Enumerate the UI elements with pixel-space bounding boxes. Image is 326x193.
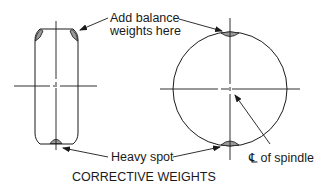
label-spindle-center: ℄ of spindle — [249, 152, 314, 165]
arrow-heavy-spot-front — [173, 147, 220, 157]
front-view-wheel — [160, 18, 300, 160]
arrow-heavy-spot-side — [63, 148, 108, 157]
balance-weight-top-right — [70, 30, 78, 42]
arrow-to-side-weight — [80, 18, 108, 30]
label-add-weights-line2: weights here — [110, 25, 181, 38]
balance-weight-top-left — [36, 30, 44, 42]
side-view-wheel — [14, 21, 97, 150]
label-heavy-spot: Heavy spot — [111, 151, 174, 164]
side-view-outline — [35, 29, 78, 144]
arrow-to-front-weight — [179, 19, 222, 31]
diagram-title: CORRECTIVE WEIGHTS — [72, 171, 216, 184]
arrow-spindle-center — [235, 95, 270, 144]
